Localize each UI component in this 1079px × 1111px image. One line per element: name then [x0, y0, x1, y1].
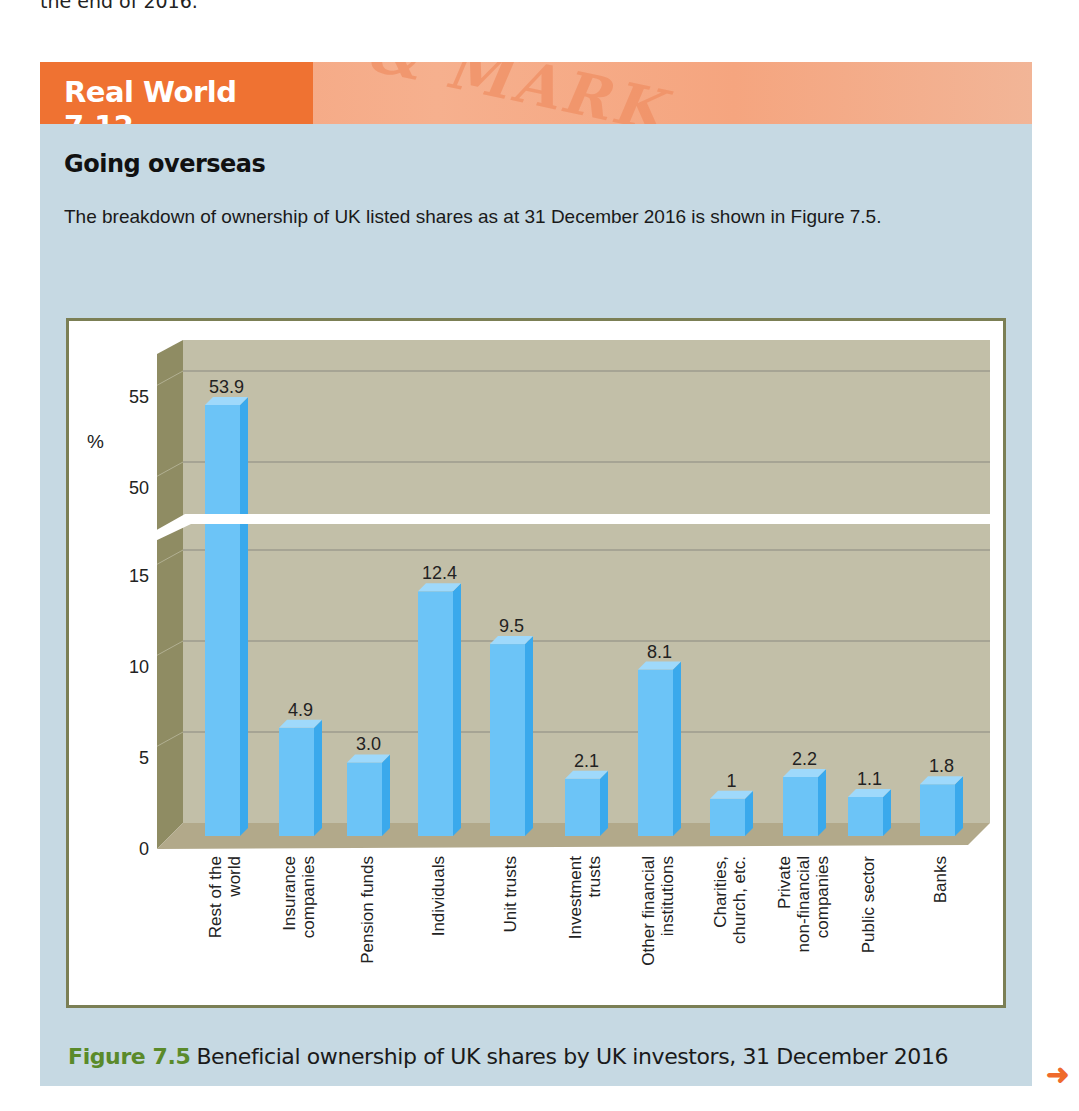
- category-label-line: Rest of the: [206, 856, 225, 938]
- section-heading: Going overseas: [64, 150, 265, 178]
- bar-side: [525, 636, 533, 836]
- real-world-box: & MARK Real World 7.12 Going overseas Th…: [40, 62, 1032, 1086]
- bar-side: [453, 583, 461, 836]
- bar-side: [955, 776, 963, 836]
- bar-side: [818, 769, 826, 836]
- category-label: Investmenttrusts: [566, 856, 604, 939]
- banner-newspaper-decoration: & MARK: [366, 62, 678, 124]
- category-label: Other financialinstitutions: [639, 856, 677, 966]
- category-label-line: Private: [775, 856, 794, 909]
- data-label: 9.5: [499, 616, 524, 636]
- category-label-line: Charities,: [711, 856, 730, 928]
- data-label: 1: [726, 771, 736, 791]
- bar-side: [883, 789, 891, 836]
- data-label: 4.9: [288, 700, 313, 720]
- bar: [920, 776, 963, 836]
- bar-side: [600, 771, 608, 836]
- bar: [783, 769, 826, 836]
- data-label: 2.2: [792, 749, 817, 769]
- category-label: Public sector: [859, 856, 878, 954]
- data-label: 2.1: [574, 751, 599, 771]
- bar-side: [673, 662, 681, 836]
- category-label-line: Investment: [566, 856, 585, 939]
- figure-number: Figure 7.5: [68, 1044, 190, 1069]
- category-label-line: world: [225, 856, 244, 898]
- category-label: Insurancecompanies: [280, 856, 318, 938]
- banner: & MARK Real World 7.12: [40, 62, 1032, 124]
- data-label: 12.4: [422, 563, 457, 583]
- y-tick-label: 55: [129, 387, 149, 407]
- bar: [490, 636, 533, 836]
- category-label-line: Banks: [931, 856, 950, 903]
- bar: [418, 583, 461, 836]
- category-label: Privatenon-financialcompanies: [775, 856, 832, 952]
- banner-title: Real World 7.12: [64, 75, 313, 124]
- category-label-line: Public sector: [859, 856, 878, 954]
- category-label-line: church, etc.: [730, 856, 749, 944]
- bar-front: [848, 797, 883, 836]
- category-label-line: non-financial: [794, 856, 813, 952]
- data-label: 8.1: [647, 642, 672, 662]
- data-label: 53.9: [209, 377, 244, 397]
- bar-front: [279, 728, 314, 836]
- y-tick-label: 50: [129, 478, 149, 498]
- bar: [565, 771, 608, 836]
- arrow-right-icon[interactable]: ➜: [1046, 1058, 1069, 1091]
- bar-front: [418, 591, 453, 836]
- bar-front: [920, 784, 955, 836]
- category-label-line: Other financial: [639, 856, 658, 966]
- bar-front: [783, 777, 818, 836]
- bar: [710, 791, 753, 836]
- y-tick-label: 5: [139, 748, 149, 768]
- figure-caption-text: Beneficial ownership of UK shares by UK …: [196, 1044, 948, 1069]
- data-label: 1.1: [857, 769, 882, 789]
- intro-paragraph: The breakdown of ownership of UK listed …: [64, 202, 1014, 231]
- bar-side: [314, 720, 322, 836]
- category-label: Banks: [931, 856, 950, 903]
- category-label-line: Pension funds: [358, 856, 377, 964]
- category-label: Unit trusts: [501, 856, 520, 933]
- bar: [205, 397, 248, 836]
- category-label-line: Unit trusts: [501, 856, 520, 933]
- bar-front: [347, 762, 382, 836]
- bar-front: [490, 644, 525, 836]
- bar: [279, 720, 322, 836]
- bar-chart: 5055051015 53.94.93.012.49.52.18.112.21.…: [69, 321, 1003, 1005]
- category-label-line: institutions: [658, 856, 677, 936]
- bar-side: [382, 754, 390, 836]
- bar-front: [565, 779, 600, 836]
- side-wall: [157, 340, 183, 849]
- category-label-line: companies: [813, 856, 832, 938]
- category-label-line: trusts: [585, 856, 604, 898]
- bar: [848, 789, 891, 836]
- bar-front: [205, 405, 240, 836]
- figure-caption: Figure 7.5Beneficial ownership of UK sha…: [68, 1044, 948, 1069]
- category-label: Individuals: [429, 856, 448, 936]
- banner-tab: Real World 7.12: [40, 62, 313, 124]
- data-label: 3.0: [356, 734, 381, 754]
- bar-side: [240, 397, 248, 836]
- y-tick-label: 10: [129, 657, 149, 677]
- bar-front: [638, 670, 673, 836]
- category-label: Pension funds: [358, 856, 377, 964]
- y-tick-label: 0: [139, 839, 149, 859]
- chart-frame: 5055051015 53.94.93.012.49.52.18.112.21.…: [66, 318, 1006, 1008]
- bar-front: [710, 799, 745, 836]
- category-label: Charities,church, etc.: [711, 856, 749, 944]
- category-label-line: Insurance: [280, 856, 299, 931]
- previous-paragraph-fragment: the end of 2016.: [40, 0, 198, 12]
- bar: [638, 662, 681, 836]
- category-label: Rest of theworld: [206, 856, 244, 938]
- data-label: 1.8: [929, 756, 954, 776]
- bar: [347, 754, 390, 836]
- y-axis-label: %: [87, 431, 104, 452]
- category-label-line: companies: [299, 856, 318, 938]
- category-label-line: Individuals: [429, 856, 448, 936]
- y-tick-label: 15: [129, 566, 149, 586]
